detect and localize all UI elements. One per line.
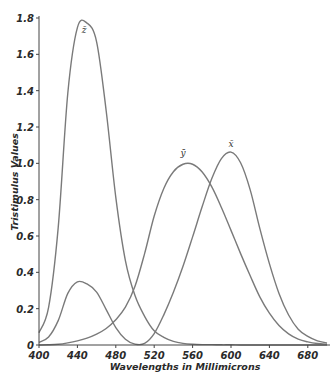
x-tick-label: 680: [297, 350, 318, 361]
y-tick-label: 1.6: [16, 49, 34, 60]
x-tick-label: 400: [28, 350, 50, 361]
y-tick-label: 0.6: [16, 231, 34, 242]
x-tick-label: 640: [259, 350, 280, 361]
x-tick-label: 560: [182, 350, 203, 361]
plot-curves: [39, 20, 327, 345]
y-tick-label: 0.4: [16, 267, 34, 278]
y-tick-label: 1.4: [16, 86, 34, 97]
curve-x-bar: [39, 152, 327, 345]
x-tick-label: 440: [66, 350, 88, 361]
x-axis-title: Wavelengths in Millimicrons: [110, 361, 261, 372]
y-tick-label: 0.2: [16, 304, 34, 315]
curve-label: ȳ: [179, 148, 186, 158]
x-tick-label: 480: [104, 350, 126, 361]
x-ticks: 400440480520560600640680: [28, 345, 319, 361]
curve-z-bar: [39, 20, 327, 345]
cie-tristimulus-chart: z̄ȳx̄ 00.20.40.60.81.01.21.41.61.8 40044…: [0, 0, 335, 381]
y-tick-label: 1.2: [16, 122, 34, 133]
y-axis-title: Tristimulus Values: [9, 133, 20, 231]
x-tick-label: 520: [144, 350, 165, 361]
y-tick-label: 1.8: [16, 13, 34, 24]
curve-label: x̄: [228, 139, 233, 149]
curve-y-bar: [39, 163, 327, 345]
x-tick-label: 600: [221, 350, 242, 361]
curve-label: z̄: [81, 25, 87, 35]
